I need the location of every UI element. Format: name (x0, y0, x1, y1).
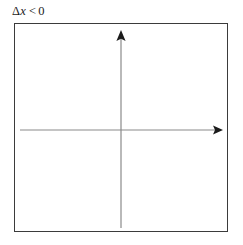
less-than-symbol: < (27, 4, 38, 18)
delta-symbol: Δ (12, 4, 20, 18)
figure-root: Δx<0 (0, 0, 243, 245)
number-zero: 0 (38, 4, 44, 18)
caption-delta-x-less-than-zero: Δx<0 (12, 3, 45, 19)
plot-frame-rectangle (14, 23, 228, 232)
variable-x: x (20, 4, 27, 18)
